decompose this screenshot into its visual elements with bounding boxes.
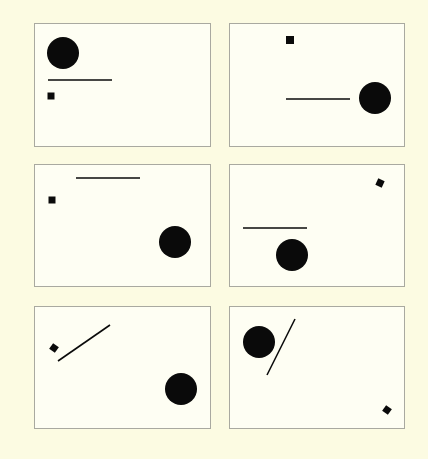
panel-5 (34, 306, 211, 429)
square-shape (49, 197, 56, 204)
panel-3 (34, 164, 211, 287)
square-shape (49, 343, 59, 353)
circle-shape (165, 373, 197, 405)
panel-6 (229, 306, 405, 429)
square-shape (382, 405, 392, 415)
panel-4 (229, 164, 405, 287)
circle-shape (159, 226, 191, 258)
square-shape (375, 178, 384, 187)
panel-1 (34, 23, 211, 147)
square-shape (48, 93, 55, 100)
square-shape (286, 36, 294, 44)
circle-shape (47, 37, 79, 69)
circle-shape (359, 82, 391, 114)
line-segment (58, 325, 110, 361)
circle-shape (243, 326, 275, 358)
panel-2 (229, 23, 405, 147)
circle-shape (276, 239, 308, 271)
